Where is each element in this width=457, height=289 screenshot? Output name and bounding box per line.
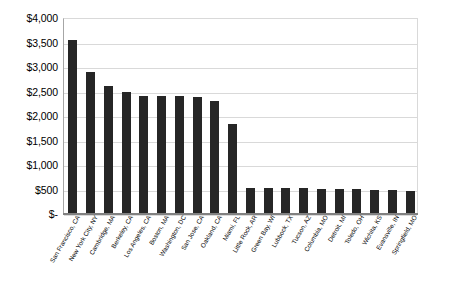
bar <box>406 191 415 214</box>
bars-layer <box>64 19 417 214</box>
bar <box>388 190 397 214</box>
bar <box>193 97 202 214</box>
bar <box>264 188 273 214</box>
bar <box>157 96 166 214</box>
y-tick-label: $2,000 <box>0 111 58 121</box>
bar <box>210 101 219 214</box>
bar <box>175 96 184 214</box>
y-tick-label: $1,500 <box>0 136 58 146</box>
y-tick-label: $- <box>0 209 58 219</box>
bar <box>335 189 344 214</box>
y-tick-label: $2,500 <box>0 87 58 97</box>
bar <box>228 124 237 214</box>
bar <box>352 189 361 214</box>
y-axis: $4,000$3,500$3,000$2,500$2,000$1,500$1,0… <box>0 18 58 214</box>
y-tick-label: $3,000 <box>0 62 58 72</box>
bar <box>281 188 290 214</box>
x-axis: San Francisco, CANew York City, NYCambri… <box>63 214 418 289</box>
y-tick-label: $3,500 <box>0 38 58 48</box>
bar-chart: $4,000$3,500$3,000$2,500$2,000$1,500$1,0… <box>0 0 457 289</box>
bar <box>139 96 148 214</box>
bar <box>122 92 131 214</box>
plot-area <box>63 18 418 214</box>
y-tick-label: $1,000 <box>0 160 58 170</box>
bar <box>104 86 113 214</box>
y-tick-label: $500 <box>0 185 58 195</box>
bar <box>68 40 77 214</box>
bar <box>299 188 308 214</box>
y-tick-label: $4,000 <box>0 13 58 23</box>
bar <box>370 190 379 215</box>
bar <box>317 189 326 214</box>
bar <box>246 188 255 214</box>
bar <box>86 72 95 214</box>
